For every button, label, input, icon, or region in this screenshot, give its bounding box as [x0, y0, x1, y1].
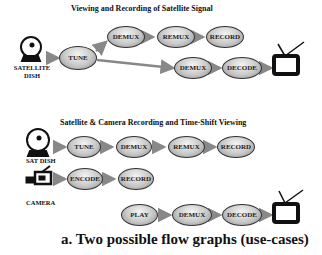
node-tune: TUNE [67, 136, 101, 158]
node-demux: DEMUX [116, 136, 152, 158]
node-decode: DECODE [222, 204, 262, 226]
node-record: RECORD [118, 168, 154, 190]
satellite-dish-icon [21, 37, 41, 61]
figure-caption: a. Two possible flow graphs (use-cases) [61, 231, 309, 248]
television-icon [274, 190, 303, 222]
satellite-dish-label: SATELLITE DISH [12, 64, 52, 80]
node-demux: DEMUX [107, 26, 145, 48]
node-play: PLAY [121, 204, 158, 226]
television-icon [274, 42, 304, 74]
diagram-title: Viewing and Recording of Satellite Signa… [71, 4, 213, 13]
satellite-dish-icon [27, 129, 49, 156]
node-record: RECORD [217, 136, 255, 158]
sat-dish-label: SAT DISH [26, 157, 56, 164]
diagram-title: Satellite & Camera Recording and Time-Sh… [60, 118, 246, 127]
node-remux: REMUX [157, 26, 195, 48]
node-tune: TUNE [59, 46, 97, 70]
camera-label: CAMERA [26, 199, 55, 206]
node-record: RECORD [206, 26, 244, 48]
node-demux: DEMUX [172, 204, 212, 226]
node-demux: DEMUX [174, 57, 212, 79]
camera-icon [26, 166, 51, 184]
node-encode: ENCODE [67, 168, 103, 190]
node-decode: DECODE [222, 57, 262, 79]
node-remux: REMUX [168, 136, 205, 158]
